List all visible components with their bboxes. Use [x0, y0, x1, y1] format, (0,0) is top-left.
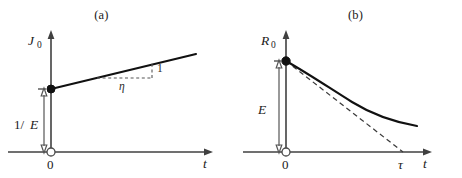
panel-b: (b) R 0 E 0 τ: [231, 0, 462, 178]
slope-rise-label: 1: [157, 62, 163, 74]
x-axis-arrowhead-b: [423, 149, 432, 156]
y-axis-label-b: R: [260, 33, 270, 48]
panel-a-plot: J 0 1/ E η 1 0 t: [0, 0, 231, 178]
origin-label-a: 0: [47, 157, 54, 172]
x-axis-arrowhead-a: [204, 149, 213, 156]
relaxation-curve: [286, 61, 417, 126]
y-axis-label-a: J: [28, 33, 35, 48]
initial-tangent-line: [286, 61, 403, 152]
y-axis-label-a-subscript: 0: [37, 40, 42, 50]
y-axis-arrowhead-a: [48, 30, 55, 39]
tau-label: τ: [398, 157, 404, 172]
x-axis-label-b: t: [423, 156, 428, 171]
origin-label-b: 0: [282, 157, 289, 172]
figure-container: (a) J 0 1/ E: [0, 0, 462, 178]
y-axis-arrowhead-b: [283, 30, 290, 39]
slope-run-label: η: [119, 80, 125, 93]
intercept-dot-b: [282, 57, 290, 65]
origin-marker-a: [47, 148, 55, 156]
one-over-e-label-symbol: E: [29, 117, 39, 132]
origin-marker-b: [282, 148, 290, 156]
x-axis-label-a: t: [203, 156, 208, 171]
y-axis-label-b-subscript: 0: [271, 40, 276, 50]
intercept-dot-a: [47, 85, 55, 93]
one-over-e-label-numerator: 1/: [14, 117, 25, 132]
panel-a: (a) J 0 1/ E: [0, 0, 231, 178]
e-label: E: [257, 102, 267, 117]
panel-b-plot: R 0 E 0 τ t: [231, 0, 462, 178]
